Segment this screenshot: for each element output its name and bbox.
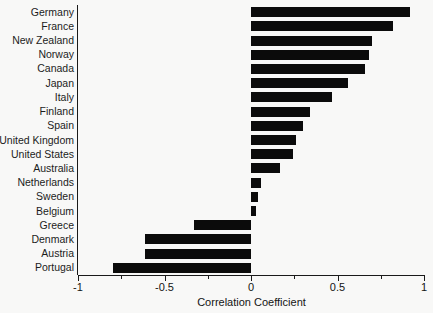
- category-label: Canada: [37, 63, 74, 74]
- bar: [251, 50, 369, 60]
- bar: [113, 263, 251, 273]
- category-label: United Kingdom: [0, 135, 74, 146]
- bar: [251, 92, 332, 102]
- bar: [251, 192, 258, 202]
- x-axis-title: Correlation Coefficient: [78, 297, 425, 308]
- bar: [251, 135, 296, 145]
- horizontal-bar-chart: GermanyFranceNew ZealandNorwayCanadaJapa…: [0, 0, 433, 313]
- bar: [251, 107, 310, 117]
- category-label: United States: [11, 149, 74, 160]
- category-label: Italy: [55, 92, 74, 103]
- y-axis-category-labels: GermanyFranceNew ZealandNorwayCanadaJapa…: [0, 0, 74, 313]
- bar: [145, 249, 251, 259]
- bar: [251, 163, 280, 173]
- bar: [145, 234, 251, 244]
- category-label: Spain: [47, 120, 74, 131]
- category-label: Norway: [38, 49, 74, 60]
- category-label: Denmark: [31, 234, 74, 245]
- bar: [251, 78, 348, 88]
- x-tick-minor: [294, 275, 295, 279]
- category-label: Japan: [45, 78, 74, 89]
- category-label: Australia: [33, 163, 74, 174]
- bar: [194, 220, 251, 230]
- plot-area: [78, 5, 424, 275]
- category-label: Greece: [40, 220, 74, 231]
- category-label: Austria: [41, 248, 74, 259]
- category-label: New Zealand: [12, 35, 74, 46]
- x-tick-label: 0: [248, 282, 254, 293]
- bar: [251, 121, 303, 131]
- bar: [251, 206, 256, 216]
- x-tick-minor: [381, 275, 382, 279]
- bar: [251, 21, 393, 31]
- x-tick-minor: [208, 275, 209, 279]
- category-label: Belgium: [36, 206, 74, 217]
- category-label: Portugal: [35, 262, 74, 273]
- bar: [251, 36, 372, 46]
- bar: [251, 7, 410, 17]
- category-label: Germany: [31, 7, 74, 18]
- x-tick-label: 1: [421, 282, 427, 293]
- category-label: Finland: [40, 106, 74, 117]
- bar: [251, 64, 365, 74]
- x-tick-label: 0.5: [330, 282, 345, 293]
- category-label: Netherlands: [17, 177, 74, 188]
- category-label: France: [41, 21, 74, 32]
- bar: [251, 149, 293, 159]
- category-label: Sweden: [36, 191, 74, 202]
- x-tick-label: -0.5: [155, 282, 174, 293]
- x-tick-minor: [121, 275, 122, 279]
- bar: [251, 178, 261, 188]
- x-tick-label: -1: [73, 282, 83, 293]
